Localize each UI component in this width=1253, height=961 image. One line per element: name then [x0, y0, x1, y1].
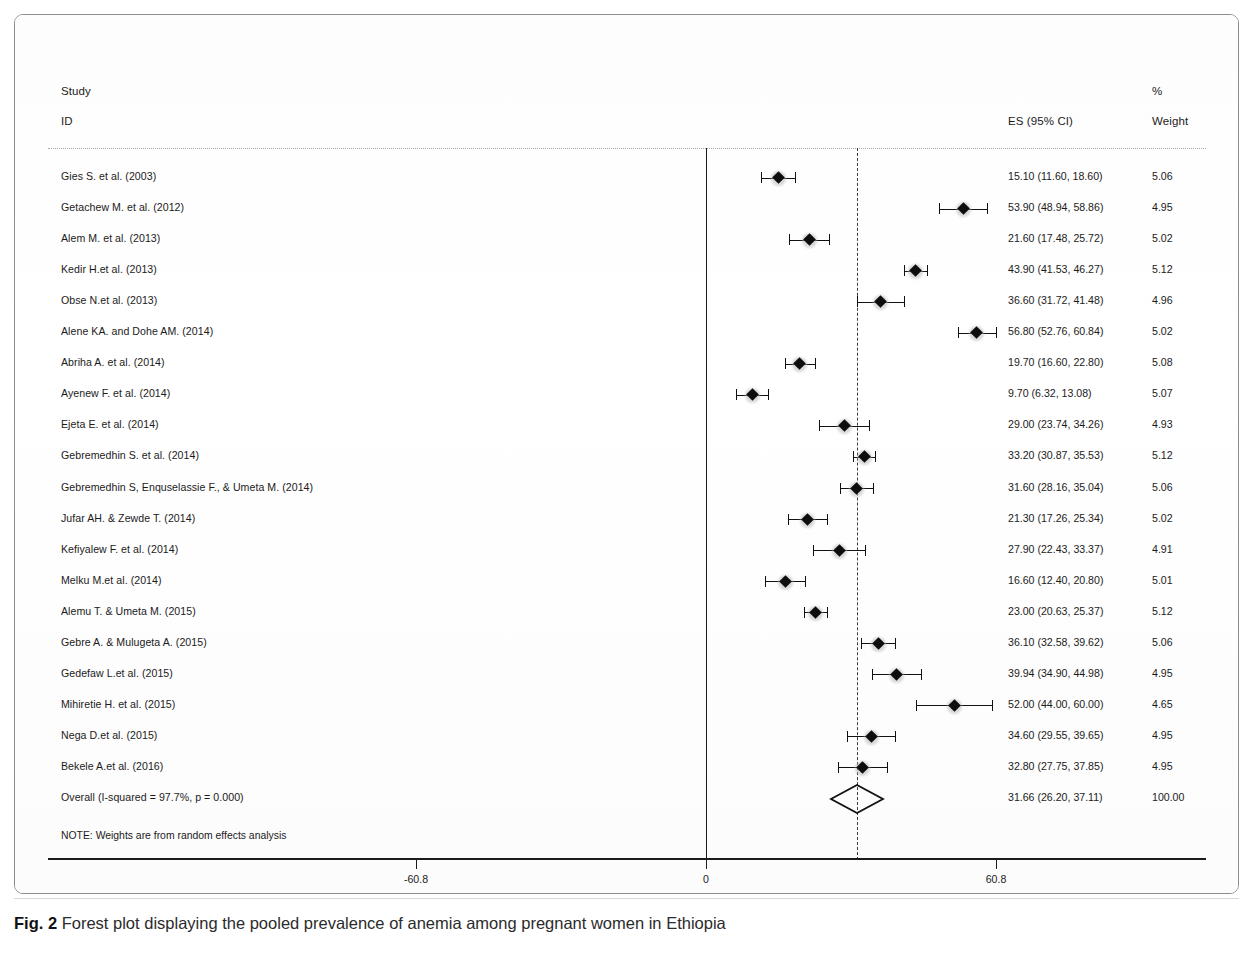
- forest-row: Alemu T. & Umeta M. (2015)23.00 (20.63, …: [15, 602, 1239, 624]
- ci-lower-cap: [872, 669, 873, 680]
- forest-plot-area: Gies S. et al. (2003)15.10 (11.60, 18.60…: [15, 15, 1239, 894]
- axis-tick: [706, 858, 707, 869]
- ci-lower-cap: [958, 327, 959, 338]
- forest-row: Ayenew F. et al. (2014)9.70 (6.32, 13.08…: [15, 384, 1239, 406]
- weight-text: 5.07: [1152, 387, 1173, 399]
- study-label: Nega D.et al. (2015): [61, 729, 157, 741]
- study-label: Kedir H.et al. (2013): [61, 263, 157, 275]
- weight-text: 5.06: [1152, 170, 1173, 182]
- study-label: Getachew M. et al. (2012): [61, 201, 184, 213]
- effect-size-text: 36.10 (32.58, 39.62): [1008, 636, 1103, 648]
- study-label: Ejeta E. et al. (2014): [61, 418, 159, 430]
- study-label: Abriha A. et al. (2014): [61, 356, 165, 368]
- effect-size-text: 43.90 (41.53, 46.27): [1008, 263, 1103, 275]
- effect-size-text: 34.60 (29.55, 39.65): [1008, 729, 1103, 741]
- ci-lower-cap: [840, 483, 841, 494]
- weight-text: 5.02: [1152, 325, 1173, 337]
- ci-upper-cap: [829, 234, 830, 245]
- forest-row: Ejeta E. et al. (2014)29.00 (23.74, 34.2…: [15, 415, 1239, 437]
- effect-size-text: 39.94 (34.90, 44.98): [1008, 667, 1103, 679]
- ci-lower-cap: [847, 731, 848, 742]
- overall-weight-text: 100.00: [1152, 791, 1184, 803]
- forest-row: Gebremedhin S, Enquselassie F., & Umeta …: [15, 478, 1239, 500]
- effect-size-text: 32.80 (27.75, 37.85): [1008, 760, 1103, 772]
- null-effect-line: [706, 148, 707, 860]
- study-label: Obse N.et al. (2013): [61, 294, 157, 306]
- forest-row: Alene KA. and Dohe AM. (2014)56.80 (52.7…: [15, 322, 1239, 344]
- ci-lower-cap: [916, 700, 917, 711]
- ci-upper-cap: [927, 265, 928, 276]
- effect-size-text: 9.70 (6.32, 13.08): [1008, 387, 1092, 399]
- weight-text: 5.12: [1152, 263, 1173, 275]
- effect-size-text: 16.60 (12.40, 20.80): [1008, 574, 1103, 586]
- study-label: Jufar AH. & Zewde T. (2014): [61, 512, 195, 524]
- ci-upper-cap: [921, 669, 922, 680]
- effect-size-text: 21.60 (17.48, 25.72): [1008, 232, 1103, 244]
- forest-row: Abriha A. et al. (2014)19.70 (16.60, 22.…: [15, 353, 1239, 375]
- ci-lower-cap: [789, 234, 790, 245]
- ci-upper-cap: [904, 296, 905, 307]
- study-label: Mihiretie H. et al. (2015): [61, 698, 175, 710]
- weight-text: 5.02: [1152, 512, 1173, 524]
- weight-text: 4.96: [1152, 294, 1173, 306]
- ci-upper-cap: [815, 358, 816, 369]
- forest-row: Melku M.et al. (2014)16.60 (12.40, 20.80…: [15, 571, 1239, 593]
- study-label: Gies S. et al. (2003): [61, 170, 156, 182]
- study-label: Ayenew F. et al. (2014): [61, 387, 170, 399]
- study-label: Alem M. et al. (2013): [61, 232, 160, 244]
- forest-row: Mihiretie H. et al. (2015)52.00 (44.00, …: [15, 695, 1239, 717]
- ci-lower-cap: [838, 762, 839, 773]
- forest-row: Nega D.et al. (2015)34.60 (29.55, 39.65)…: [15, 726, 1239, 748]
- ci-lower-cap: [939, 203, 940, 214]
- ci-upper-cap: [827, 514, 828, 525]
- weight-text: 5.06: [1152, 636, 1173, 648]
- study-label: Bekele A.et al. (2016): [61, 760, 163, 772]
- effect-size-text: 23.00 (20.63, 25.37): [1008, 605, 1103, 617]
- effect-size-text: 56.80 (52.76, 60.84): [1008, 325, 1103, 337]
- forest-row-overall: Overall (I-squared = 97.7%, p = 0.000)31…: [15, 788, 1239, 810]
- weight-text: 4.65: [1152, 698, 1173, 710]
- forest-row: Alem M. et al. (2013)21.60 (17.48, 25.72…: [15, 229, 1239, 251]
- axis-tick: [416, 858, 417, 869]
- ci-upper-cap: [895, 638, 896, 649]
- study-label: Alene KA. and Dohe AM. (2014): [61, 325, 213, 337]
- effect-size-text: 52.00 (44.00, 60.00): [1008, 698, 1103, 710]
- weight-text: 5.01: [1152, 574, 1173, 586]
- ci-upper-cap: [795, 172, 796, 183]
- forest-row: Getachew M. et al. (2012)53.90 (48.94, 5…: [15, 198, 1239, 220]
- weight-text: 4.95: [1152, 729, 1173, 741]
- effect-size-text: 31.60 (28.16, 35.04): [1008, 481, 1103, 493]
- effect-size-text: 36.60 (31.72, 41.48): [1008, 294, 1103, 306]
- effect-size-text: 29.00 (23.74, 34.26): [1008, 418, 1103, 430]
- weight-text: 4.95: [1152, 201, 1173, 213]
- ci-upper-cap: [875, 451, 876, 462]
- ci-upper-cap: [805, 576, 806, 587]
- weight-text: 4.95: [1152, 667, 1173, 679]
- note-text: NOTE: Weights are from random effects an…: [61, 830, 286, 841]
- study-label: Gedefaw L.et al. (2015): [61, 667, 173, 679]
- weight-text: 5.12: [1152, 605, 1173, 617]
- ci-lower-cap: [861, 638, 862, 649]
- ci-upper-cap: [768, 389, 769, 400]
- study-label: Gebremedhin S, Enquselassie F., & Umeta …: [61, 481, 313, 493]
- axis-tick-label: 60.8: [986, 873, 1007, 885]
- effect-size-text: 15.10 (11.60, 18.60): [1008, 170, 1103, 182]
- weight-text: 5.12: [1152, 449, 1173, 461]
- ci-lower-cap: [813, 545, 814, 556]
- ci-upper-cap: [895, 731, 896, 742]
- effect-size-text: 27.90 (22.43, 33.37): [1008, 543, 1103, 555]
- figure-caption-label: Fig. 2: [14, 914, 57, 932]
- axis-tick-label: -60.8: [404, 873, 428, 885]
- forest-row: Jufar AH. & Zewde T. (2014)21.30 (17.26,…: [15, 509, 1239, 531]
- ci-lower-cap: [736, 389, 737, 400]
- ci-upper-cap: [873, 483, 874, 494]
- weight-text: 4.91: [1152, 543, 1173, 555]
- forest-row: Kedir H.et al. (2013)43.90 (41.53, 46.27…: [15, 260, 1239, 282]
- ci-lower-cap: [904, 265, 905, 276]
- effect-size-text: 19.70 (16.60, 22.80): [1008, 356, 1103, 368]
- ci-lower-cap: [761, 172, 762, 183]
- ci-upper-cap: [887, 762, 888, 773]
- forest-row: Gebre A. & Mulugeta A. (2015)36.10 (32.5…: [15, 633, 1239, 655]
- caption-divider: [14, 898, 1239, 899]
- ci-upper-cap: [869, 420, 870, 431]
